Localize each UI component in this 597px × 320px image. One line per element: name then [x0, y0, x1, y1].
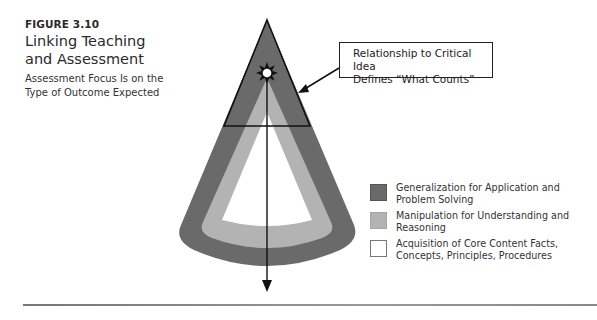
- swatch-white: [370, 240, 387, 257]
- swatch-dark-gray: [370, 184, 387, 201]
- callout-line-2: Defines “What Counts”: [353, 73, 492, 86]
- legend-label-line-1: Acquisition of Core Content Facts,: [396, 238, 558, 250]
- cone-diagram: [0, 0, 597, 320]
- legend-item-acquisition: Acquisition of Core Content Facts, Conce…: [370, 240, 585, 268]
- arrow-pointer-icon: [298, 68, 339, 93]
- legend-label-line-1: Generalization for Application and: [396, 182, 560, 194]
- legend-label-line-1: Manipulation for Understanding and: [396, 210, 569, 222]
- legend-label: Manipulation for Understanding and Reaso…: [396, 210, 569, 234]
- legend-label: Acquisition of Core Content Facts, Conce…: [396, 238, 558, 262]
- legend-label: Generalization for Application and Probl…: [396, 182, 560, 206]
- legend-item-generalization: Generalization for Application and Probl…: [370, 184, 585, 212]
- bottom-rule-divider: [23, 304, 597, 306]
- sun-burst-icon: [256, 62, 278, 84]
- swatch-light-gray: [370, 212, 387, 229]
- callout-box: Relationship to Critical Idea Defines “W…: [339, 42, 493, 78]
- callout-line-1: Relationship to Critical Idea: [353, 47, 492, 73]
- legend-label-line-2: Concepts, Principles, Procedures: [396, 250, 558, 262]
- legend-label-line-2: Problem Solving: [396, 194, 560, 206]
- legend-label-line-2: Reasoning: [396, 222, 569, 234]
- legend: Generalization for Application and Probl…: [370, 184, 585, 268]
- legend-item-manipulation: Manipulation for Understanding and Reaso…: [370, 212, 585, 240]
